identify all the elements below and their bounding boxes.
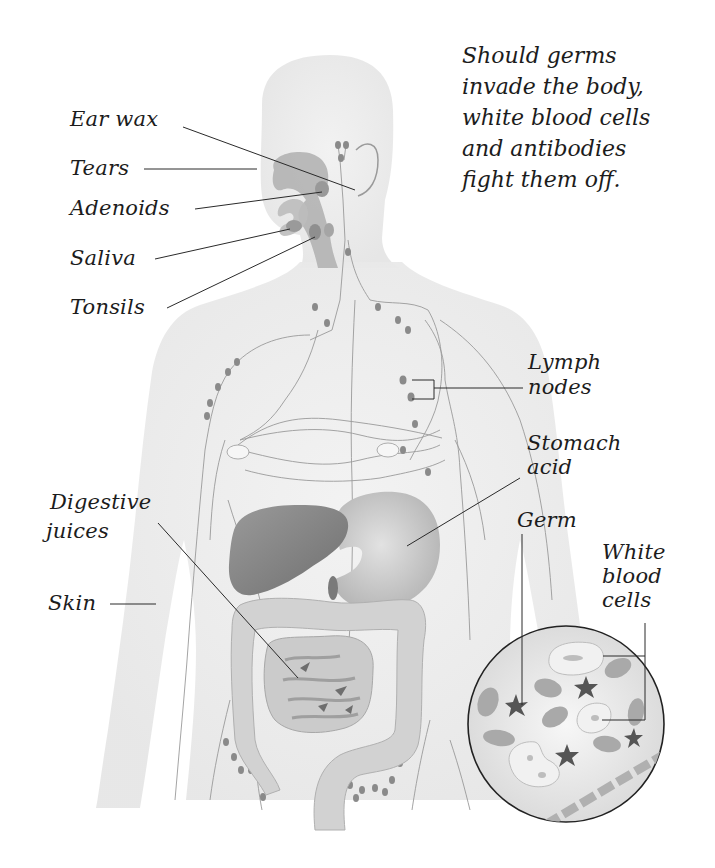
gallbladder — [328, 576, 338, 600]
caption-line: and antibodies — [462, 133, 712, 164]
label-digestive-juices-line2: juices — [46, 520, 109, 543]
caption-line: fight them off. — [462, 164, 712, 195]
label-skin: Skin — [48, 592, 96, 615]
label-germ: Germ — [517, 509, 577, 532]
label-ear-wax: Ear wax — [70, 108, 158, 131]
caption-line: invade the body, — [462, 71, 712, 102]
label-digestive-juices-line1: Digestive — [50, 491, 151, 514]
label-white-blood-cells-line3: cells — [602, 589, 651, 612]
caption-line: white blood cells — [462, 102, 712, 133]
caption-line: Should germs — [462, 40, 712, 71]
label-white-blood-cells-line1: White — [602, 541, 666, 564]
label-stomach-acid-line2: acid — [527, 456, 572, 479]
immune-defense-diagram: Should germs invade the body, white bloo… — [0, 0, 715, 868]
label-tears: Tears — [70, 157, 129, 180]
label-tonsils: Tonsils — [70, 296, 145, 319]
label-saliva: Saliva — [70, 247, 136, 270]
label-white-blood-cells-line2: blood — [602, 565, 662, 588]
small-intestine — [264, 636, 373, 733]
label-lymph-nodes-line1: Lymph — [528, 351, 601, 374]
label-adenoids: Adenoids — [70, 197, 170, 220]
label-lymph-nodes-line2: nodes — [528, 376, 592, 399]
label-stomach-acid-line1: Stomach — [527, 432, 622, 455]
caption-text: Should germs invade the body, white bloo… — [462, 40, 712, 195]
